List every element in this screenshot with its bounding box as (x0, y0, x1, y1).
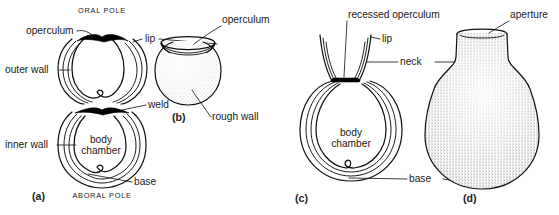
panel-a-lip-label: lip (145, 33, 156, 44)
panel-a-inner-wall-label: inner wall (5, 139, 48, 150)
panel-c-neck-label: neck (400, 56, 422, 67)
panel-b-rough-wall-label: rough wall (212, 111, 258, 122)
panel-a-aboral-pole-label: ABORAL POLE (72, 191, 131, 200)
panel-c-body-chamber-label-line1: body (340, 127, 363, 138)
panel-a-caption: (a) (32, 190, 45, 202)
panel-c-recessed-operculum (331, 78, 360, 82)
figure-diagram: body chamber ORAL POLE ABORAL POLE operc… (0, 0, 559, 215)
panel-c-caption: (c) (295, 192, 308, 204)
panel-b-caption: (b) (172, 111, 186, 123)
panel-c-recessed-operculum-label: recessed operculum (348, 9, 440, 20)
panel-c-body-chamber-label-line2: chamber (331, 138, 371, 149)
figure-root: body chamber ORAL POLE ABORAL POLE operc… (0, 0, 559, 215)
panel-b-operculum-label: operculum (222, 14, 270, 25)
panel-c-lip-label: lip (382, 33, 393, 44)
panel-a-weld-label: weld (147, 99, 169, 110)
panel-a-body-chamber-label-line1: body (90, 134, 113, 145)
panel-a-oral-pole-label: ORAL POLE (78, 6, 126, 15)
panel-a-outer-wall-label: outer wall (5, 64, 49, 75)
panel-d-aperture-label: aperture (510, 9, 548, 20)
panel-c-base-label: base (409, 173, 431, 184)
panel-a-operculum-label: operculum (26, 25, 74, 36)
panel-d-caption: (d) (463, 192, 477, 204)
panel-a-body-chamber-label-line2: chamber (81, 145, 121, 156)
panel-a-base-label: base (134, 176, 156, 187)
